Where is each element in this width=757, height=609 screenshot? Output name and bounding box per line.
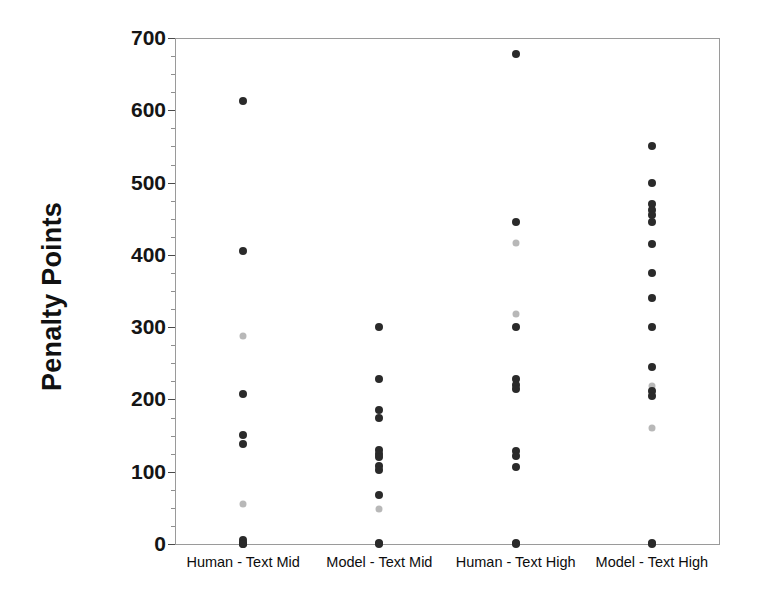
plot-frame-top xyxy=(175,38,720,39)
data-point xyxy=(648,392,656,400)
data-point xyxy=(239,431,247,439)
plot-frame-right xyxy=(719,38,720,545)
data-point xyxy=(512,311,519,318)
y-tick-minor xyxy=(171,418,175,419)
y-tick-major xyxy=(168,255,175,256)
y-tick-minor xyxy=(171,237,175,238)
data-point xyxy=(376,506,383,513)
data-point xyxy=(648,269,656,277)
y-tick-minor xyxy=(171,363,175,364)
data-point xyxy=(648,142,656,150)
y-tick-major xyxy=(168,110,175,111)
y-tick-major xyxy=(168,472,175,473)
y-tick-minor xyxy=(171,526,175,527)
y-tick-minor xyxy=(171,128,175,129)
y-tick-minor xyxy=(171,309,175,310)
x-axis-category-label: Model - Text High xyxy=(596,554,709,570)
data-point xyxy=(375,375,383,383)
data-point xyxy=(512,239,519,246)
data-point xyxy=(240,501,247,508)
y-tick-label: 500 xyxy=(131,171,166,195)
data-point xyxy=(240,332,247,339)
y-axis-title: Penalty Points xyxy=(37,167,68,427)
x-axis-category-label: Human - Text Mid xyxy=(186,554,299,570)
data-point xyxy=(375,491,383,499)
x-axis-category-label: Human - Text High xyxy=(456,554,576,570)
y-tick-minor xyxy=(171,56,175,57)
y-tick-major xyxy=(168,399,175,400)
data-point xyxy=(512,540,520,548)
y-tick-label: 400 xyxy=(131,243,166,267)
x-axis-category-label: Model - Text Mid xyxy=(326,554,432,570)
data-point xyxy=(375,466,383,474)
y-tick-major xyxy=(168,38,175,39)
data-point xyxy=(648,425,655,432)
plot-frame-left xyxy=(175,38,176,545)
plot-frame-bottom xyxy=(175,544,720,545)
data-point xyxy=(512,218,520,226)
data-point xyxy=(239,540,247,548)
scatter-plot-figure: Penalty Points 0100200300400500600700 Hu… xyxy=(0,0,757,609)
y-tick-minor xyxy=(171,165,175,166)
data-point xyxy=(648,240,656,248)
data-point xyxy=(512,463,520,471)
data-point xyxy=(512,452,520,460)
y-tick-minor xyxy=(171,436,175,437)
y-tick-label: 0 xyxy=(154,532,166,556)
data-point xyxy=(375,323,383,331)
data-point xyxy=(648,323,656,331)
y-tick-minor xyxy=(171,345,175,346)
y-tick-minor xyxy=(171,219,175,220)
y-tick-label: 700 xyxy=(131,26,166,50)
data-point xyxy=(375,453,383,461)
data-point xyxy=(239,97,247,105)
y-tick-minor xyxy=(171,490,175,491)
data-point xyxy=(512,385,520,393)
y-tick-minor xyxy=(171,454,175,455)
data-point xyxy=(512,50,520,58)
y-tick-minor xyxy=(171,381,175,382)
data-point xyxy=(375,414,383,422)
data-point xyxy=(648,363,656,371)
data-point xyxy=(239,390,247,398)
y-tick-minor xyxy=(171,146,175,147)
data-point xyxy=(648,540,656,548)
data-point xyxy=(239,247,247,255)
data-point xyxy=(648,218,656,226)
data-point xyxy=(512,323,520,331)
y-tick-minor xyxy=(171,201,175,202)
y-tick-major xyxy=(168,544,175,545)
y-tick-major xyxy=(168,183,175,184)
data-point xyxy=(648,179,656,187)
data-point xyxy=(239,440,247,448)
y-tick-minor xyxy=(171,291,175,292)
plot-area: 0100200300400500600700 Human - Text MidM… xyxy=(175,38,720,545)
y-tick-label: 200 xyxy=(131,387,166,411)
y-tick-major xyxy=(168,327,175,328)
y-tick-label: 600 xyxy=(131,98,166,122)
y-tick-label: 100 xyxy=(131,460,166,484)
y-tick-minor xyxy=(171,74,175,75)
y-tick-minor xyxy=(171,92,175,93)
y-tick-minor xyxy=(171,273,175,274)
data-point xyxy=(375,540,383,548)
y-tick-label: 300 xyxy=(131,315,166,339)
data-point xyxy=(648,294,656,302)
y-tick-minor xyxy=(171,508,175,509)
